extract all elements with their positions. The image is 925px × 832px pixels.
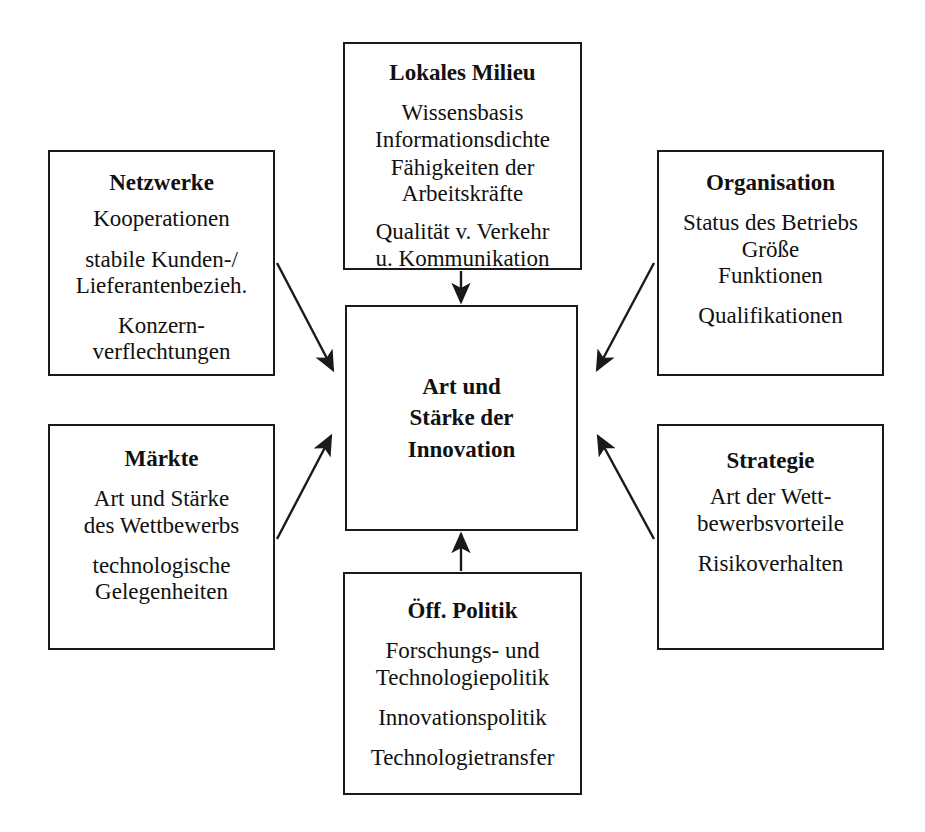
box-maerkte-group-2: technologische Gelegenheiten <box>93 553 231 605</box>
box-strategie[interactable]: Strategie Art der Wett- bewerbsvorteile … <box>657 424 884 650</box>
diagram-canvas: Lokales Milieu Wissensbasis Informations… <box>0 0 925 832</box>
box-strategie-title: Strategie <box>726 448 814 474</box>
box-organisation-group-1: Status des Betriebs Größe Funktionen <box>683 210 858 289</box>
box-netzwerke-group-1: Kooperationen <box>93 206 230 232</box>
box-oeff-politik[interactable]: Öff. Politik Forschungs- und Technologie… <box>343 572 582 795</box>
box-netzwerke-title: Netzwerke <box>109 170 214 196</box>
box-lokales-milieu-group-3: Qualität v. Verkehr u. Kommunikation <box>376 219 550 271</box>
box-organisation[interactable]: Organisation Status des Betriebs Größe F… <box>657 150 884 376</box>
box-netzwerke-group-3: Konzern- verflechtungen <box>93 313 231 365</box>
box-strategie-group-2: Risikoverhalten <box>698 551 844 577</box>
box-maerkte-title: Märkte <box>124 446 198 472</box>
box-lokales-milieu[interactable]: Lokales Milieu Wissensbasis Informations… <box>343 42 582 270</box>
box-oeff-politik-title: Öff. Politik <box>408 598 518 624</box>
box-oeff-politik-group-1: Forschungs- und Technologiepolitik <box>376 638 549 690</box>
box-lokales-milieu-group-2: Fähigkeiten der Arbeitskräfte <box>391 155 535 207</box>
arrow-organisation-to-center <box>597 263 654 370</box>
arrow-strategie-to-center <box>598 436 654 539</box>
box-organisation-group-2: Qualifikationen <box>698 303 842 329</box>
box-art-und-staerke-der-innovation[interactable]: Art und Stärke der Innovation <box>345 305 578 531</box>
box-organisation-title: Organisation <box>706 170 835 196</box>
box-lokales-milieu-group-1: Wissensbasis Informationsdichte <box>375 100 550 152</box>
box-netzwerke[interactable]: Netzwerke Kooperationen stabile Kunden-/… <box>48 150 275 376</box>
box-oeff-politik-group-2: Innovationspolitik <box>378 705 547 731</box>
box-lokales-milieu-title: Lokales Milieu <box>389 60 535 86</box>
arrow-maerkte-to-center <box>277 436 331 539</box>
arrow-netzwerke-to-center <box>277 263 333 370</box>
box-netzwerke-group-2: stabile Kunden-/ Lieferantenbezieh. <box>76 247 248 299</box>
box-maerkte[interactable]: Märkte Art und Stärke des Wettbewerbs te… <box>48 424 275 650</box>
box-maerkte-group-1: Art und Stärke des Wettbewerbs <box>84 486 240 538</box>
box-zentrum-title: Art und Stärke der Innovation <box>408 371 515 464</box>
box-strategie-group-1: Art der Wett- bewerbsvorteile <box>697 484 844 536</box>
box-oeff-politik-group-3: Technologietransfer <box>371 745 555 771</box>
